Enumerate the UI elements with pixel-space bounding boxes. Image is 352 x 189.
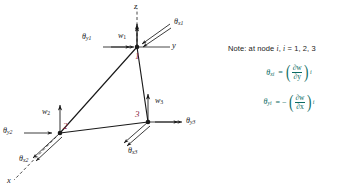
- note-block: Note: at node i, i = 1, 2, 3 θxi = ( ∂w …: [228, 44, 350, 111]
- theta-y1-label: θy1: [82, 33, 91, 42]
- figure-canvas: z y x w1 θx1 θy1 1 w2 θy2 θx2 2 w3 θy3 θ…: [0, 0, 352, 189]
- node-1-label: 1: [135, 52, 140, 61]
- paren-left: (: [286, 65, 290, 80]
- theta-y3-label: θy3: [186, 117, 195, 126]
- paren-right: ): [307, 95, 311, 110]
- w1-label: w1: [118, 32, 126, 41]
- paren-left: (: [289, 95, 293, 110]
- paren-right: ): [304, 65, 308, 80]
- theta-x2-label: θx2: [19, 155, 28, 164]
- theta-x3-label: θx3: [128, 147, 137, 156]
- equation-theta-y: θyi = − ( ∂w ∂x ) i: [228, 94, 350, 111]
- axis-x-label: x: [7, 176, 11, 185]
- axis-y-label: y: [172, 41, 176, 50]
- theta-y2-label: θy2: [3, 127, 12, 136]
- node3-dof-arrows: [124, 94, 182, 146]
- node-2-label: 2: [63, 122, 68, 131]
- equation-theta-x: θxi = ( ∂w ∂y ) i: [228, 64, 350, 81]
- node1-dof-arrows: [103, 24, 171, 47]
- axis-z-label: z: [134, 2, 137, 11]
- w3-label: w3: [155, 97, 163, 106]
- theta-x1-label: θx1: [174, 18, 183, 27]
- node-3-label: 3: [135, 110, 140, 119]
- w2-label: w2: [42, 108, 50, 117]
- note-text: Note: at node i, i = 1, 2, 3: [228, 44, 350, 53]
